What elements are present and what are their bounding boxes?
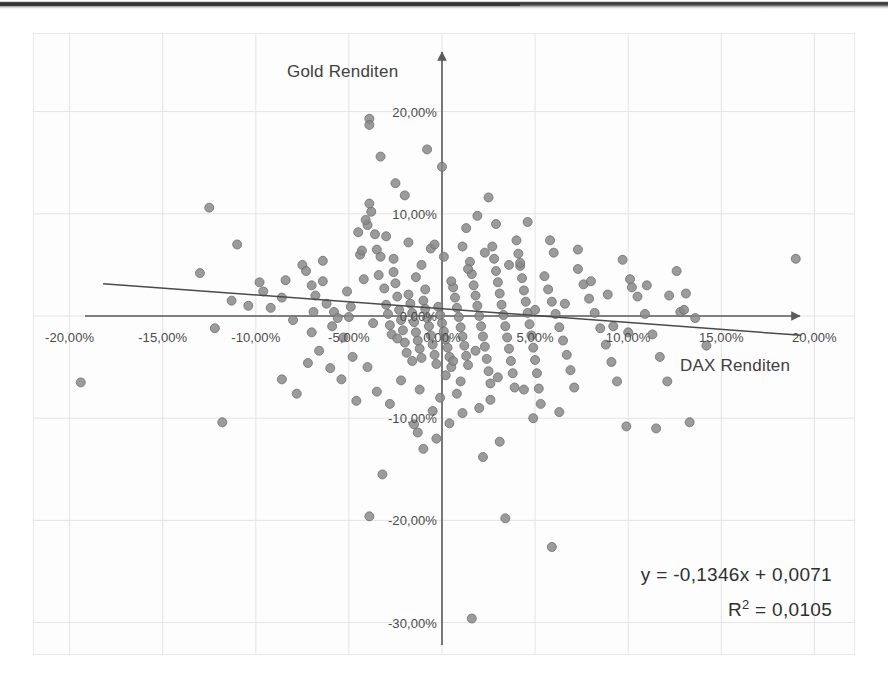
scatter-point: [421, 285, 430, 294]
scatter-point: [560, 299, 569, 308]
scatter-point: [607, 357, 616, 366]
scatter-point: [471, 291, 480, 300]
y-tick-label: 20,00%: [379, 104, 437, 119]
x-tick-label: -20,00%: [45, 330, 94, 345]
scatter-point: [486, 379, 495, 388]
scatter-point: [318, 277, 327, 286]
scatter-point: [417, 260, 426, 269]
scatter-point: [484, 193, 493, 202]
scatter-point: [501, 514, 510, 523]
scatter-point: [532, 369, 541, 378]
scatter-point: [372, 387, 381, 396]
scatter-point: [315, 346, 324, 355]
scatter-point: [493, 373, 502, 382]
scatter-point: [681, 289, 690, 298]
y-tick-label: -10,00%: [379, 411, 437, 426]
x-tick-label: 5,00%: [516, 330, 553, 345]
scatter-point: [505, 344, 514, 353]
scatter-point: [389, 268, 398, 277]
scatter-point: [546, 236, 555, 245]
scatter-point: [326, 364, 335, 373]
scatter-point: [454, 313, 463, 322]
scatter-point: [359, 275, 368, 284]
scatter-point: [289, 316, 298, 325]
scatter-point: [642, 281, 651, 290]
scatter-point: [460, 341, 469, 350]
scatter-point: [439, 252, 448, 261]
y-tick-label: 0,00%: [379, 309, 437, 324]
scatter-point: [303, 359, 312, 368]
scatter-point: [534, 384, 543, 393]
scatter-point: [365, 199, 374, 208]
scatter-point: [389, 254, 398, 263]
scatter-point: [378, 470, 387, 479]
scatter-point: [376, 252, 385, 261]
scatter-point: [369, 319, 378, 328]
scatter-point: [467, 614, 476, 623]
scatter-point: [462, 351, 471, 360]
trendline-equation: y = -0,1346x + 0,0071: [532, 560, 832, 590]
scatter-point: [307, 328, 316, 337]
scatter-point: [492, 267, 501, 276]
scatter-point: [473, 211, 482, 220]
scatter-point: [380, 284, 389, 293]
scatter-point: [205, 203, 214, 212]
scatter-point: [432, 434, 441, 443]
scatter-point: [490, 254, 499, 263]
scatter-point: [663, 377, 672, 386]
scatter-point: [495, 289, 504, 298]
scatter-point: [413, 336, 422, 345]
scatter-point: [302, 267, 311, 276]
scatter-point: [531, 355, 540, 364]
scatter-point: [497, 300, 506, 309]
scatter-point: [618, 255, 627, 264]
scatter-point: [672, 267, 681, 276]
scatter-point: [559, 336, 568, 345]
scatter-point: [613, 377, 622, 386]
scatter-point: [516, 258, 525, 267]
scatter-point: [404, 290, 413, 299]
scatter-point: [622, 422, 631, 431]
x-tick-label: -10,00%: [231, 330, 280, 345]
scatter-point: [318, 256, 327, 265]
scatter-point: [445, 419, 454, 428]
scatter-point: [370, 230, 379, 239]
scatter-point: [363, 363, 372, 372]
scatter-point: [344, 313, 353, 322]
scatter-point: [438, 162, 447, 171]
scatter-point: [478, 332, 487, 341]
scatter-point: [393, 292, 402, 301]
scatter-point: [480, 248, 489, 257]
scatter-point: [685, 418, 694, 427]
scatter-point: [438, 319, 447, 328]
scatter-point: [419, 296, 428, 305]
scatter-point: [510, 383, 519, 392]
scatter-point: [640, 309, 649, 318]
scatter-point: [385, 399, 394, 408]
x-tick-label: 20,00%: [792, 330, 837, 345]
scatter-point: [337, 375, 346, 384]
scatter-point: [462, 224, 471, 233]
scatter-point: [452, 389, 461, 398]
scatter-point: [493, 278, 502, 287]
scatter-point: [393, 334, 402, 343]
scatter-point: [523, 217, 532, 226]
scatter-point: [281, 276, 290, 285]
scatter-point: [309, 307, 318, 316]
scatter-point: [376, 152, 385, 161]
scatter-point: [354, 228, 363, 237]
scatter-point: [244, 301, 253, 310]
scatter-point: [503, 333, 512, 342]
scatter-point: [413, 428, 422, 437]
scatter-point: [585, 294, 594, 303]
x-tick-label: -5,00%: [328, 330, 370, 345]
scatter-point: [691, 314, 700, 323]
scatter-point: [626, 275, 635, 284]
scatter-point: [456, 377, 465, 386]
scatter-point: [555, 408, 564, 417]
scatter-point: [501, 322, 510, 331]
x-tick-label: 15,00%: [699, 330, 744, 345]
scatter-point: [404, 238, 413, 247]
scatter-point: [398, 326, 407, 335]
scatter-point: [458, 409, 467, 418]
